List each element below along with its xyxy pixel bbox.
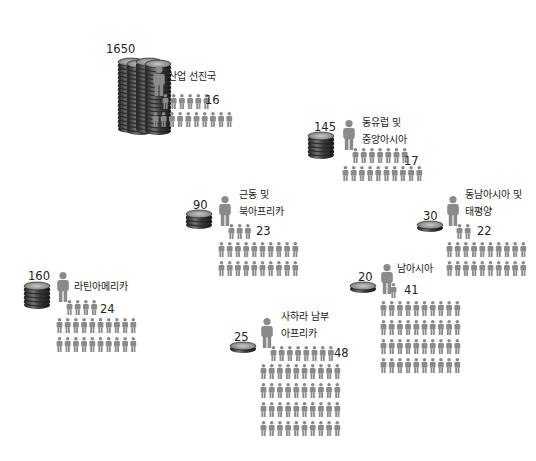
person-icon (422, 339, 428, 354)
person-icon (504, 261, 510, 276)
person-icon (381, 320, 387, 335)
region-name-label: 동남아시아 및 (465, 189, 522, 200)
person-icon (520, 242, 526, 257)
person-icon (389, 320, 395, 335)
person-icon (210, 112, 216, 127)
person-icon (389, 358, 395, 373)
person-icon (438, 358, 444, 373)
person-icon (260, 261, 266, 276)
person-icon (447, 261, 453, 276)
person-icon (310, 383, 316, 398)
person-icon (318, 421, 324, 436)
person-icon (122, 318, 128, 333)
coin-value-label: 25 (234, 330, 249, 344)
person-icon (446, 320, 452, 335)
region-name-label-line2: 아프리카 (281, 328, 317, 339)
person-icon (302, 383, 308, 398)
coin-value-label: 160 (28, 269, 50, 283)
person-icon (177, 112, 183, 127)
person-icon (295, 346, 301, 361)
person-icon (455, 242, 461, 257)
person-icon (400, 166, 406, 181)
coin-value-label: 30 (423, 209, 438, 223)
person-icon (430, 320, 436, 335)
person-icon (413, 320, 419, 335)
person-icon (269, 383, 275, 398)
person-icon (392, 166, 398, 181)
person-icon (381, 339, 387, 354)
person-large-icon (261, 318, 273, 348)
person-icon (276, 242, 282, 257)
person-large-icon (57, 272, 69, 302)
person-icon (430, 301, 436, 316)
person-icon (318, 364, 324, 379)
person-icon (284, 261, 290, 276)
person-icon (326, 383, 332, 398)
coin-value-label: 145 (314, 120, 336, 134)
person-icon (75, 300, 81, 315)
person-icon (397, 320, 403, 335)
person-icon (243, 261, 249, 276)
person-icon (422, 301, 428, 316)
person-icon (187, 94, 193, 109)
person-icon (334, 421, 340, 436)
coin-value-label: 90 (193, 198, 208, 212)
person-icon (405, 339, 411, 354)
person-icon (65, 318, 71, 333)
people-value-label: 48 (334, 346, 349, 360)
person-icon (454, 301, 460, 316)
person-icon (277, 421, 283, 436)
person-icon (446, 339, 452, 354)
coin-stack (186, 210, 212, 229)
region-name-label-line2: 북아프리카 (239, 206, 284, 217)
person-icon (488, 242, 494, 257)
person-icon (261, 421, 267, 436)
person-icon (488, 261, 494, 276)
person-icon (195, 94, 201, 109)
person-icon (312, 346, 318, 361)
person-icon (438, 320, 444, 335)
person-icon (277, 364, 283, 379)
people-value-label: 24 (100, 302, 115, 316)
region-name-label: 남아시아 (397, 263, 433, 274)
person-icon (334, 383, 340, 398)
person-icon (512, 261, 518, 276)
person-icon (359, 166, 365, 181)
person-icon (405, 320, 411, 335)
person-icon (326, 364, 332, 379)
region-name-label: 근동 및 (239, 189, 269, 200)
person-icon (260, 242, 266, 257)
person-icon (310, 421, 316, 436)
person-icon (114, 337, 120, 352)
person-icon (73, 318, 79, 333)
person-icon (430, 339, 436, 354)
person-icon (446, 301, 452, 316)
person-icon (130, 318, 136, 333)
person-icon (67, 300, 73, 315)
person-icon (310, 402, 316, 417)
person-icon (292, 242, 298, 257)
person-icon (310, 364, 316, 379)
person-icon (471, 242, 477, 257)
person-icon (471, 261, 477, 276)
person-icon (227, 242, 233, 257)
person-icon (285, 421, 291, 436)
person-icon (361, 148, 367, 163)
person-icon (454, 358, 460, 373)
person-icon (389, 301, 395, 316)
person-icon (251, 242, 257, 257)
coin-stack (24, 282, 50, 309)
person-icon (302, 402, 308, 417)
person-icon (343, 166, 349, 181)
person-icon (405, 358, 411, 373)
person-icon (463, 261, 469, 276)
person-icon (237, 224, 243, 239)
person-icon (284, 242, 290, 257)
person-icon (83, 300, 89, 315)
person-icon (512, 242, 518, 257)
person-icon (391, 283, 397, 298)
person-icon (293, 364, 299, 379)
person-icon (235, 261, 241, 276)
person-icon (318, 383, 324, 398)
person-icon (457, 224, 463, 239)
